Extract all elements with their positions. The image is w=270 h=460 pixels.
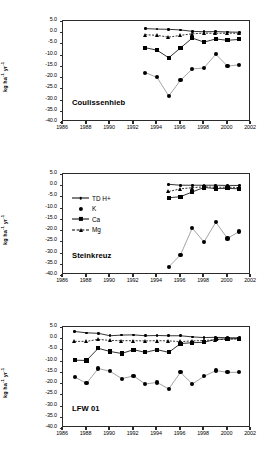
data-point-mg — [225, 31, 229, 35]
x-axis-tick-label: 1986 — [56, 431, 68, 436]
y-axis-tick — [60, 406, 63, 407]
legend-item: Ca — [72, 214, 111, 225]
y-axis-labels-1: 5.00.0-5.0-10.0-15.0-20.0-25.0-30.0-35.0… — [0, 155, 60, 294]
legend-label: Ca — [89, 216, 100, 223]
data-point-ca — [155, 348, 159, 352]
y-axis-tick — [60, 417, 63, 418]
data-point-td-h- — [167, 183, 170, 186]
legend-label: Mg — [89, 226, 101, 233]
y-axis-tick — [60, 208, 63, 209]
y-axis-tick — [60, 174, 63, 175]
legend-symbol-ca — [72, 215, 89, 224]
x-axis-tick-label: 1998 — [197, 278, 209, 283]
y-axis-tick — [60, 196, 63, 197]
x-axis-tick-label: 1994 — [150, 125, 162, 130]
y-axis-tick — [60, 88, 63, 89]
data-point-td-h- — [73, 330, 76, 333]
data-point-k — [167, 265, 171, 269]
data-point-k — [167, 387, 171, 391]
legend-symbol-td-h- — [72, 194, 89, 203]
data-point-ca — [143, 350, 147, 354]
data-point-ca — [202, 40, 206, 44]
legend-marker — [78, 217, 82, 221]
x-axis-tick-label: 1994 — [150, 278, 162, 283]
y-axis-tick — [60, 327, 63, 328]
data-point-k — [143, 71, 147, 75]
chart-panel-coulissenhieb: 5.00.0-5.0-10.0-15.0-20.0-25.0-30.0-35.0… — [0, 2, 270, 152]
y-axis-tick — [60, 21, 63, 22]
data-point-mg — [178, 33, 182, 37]
y-axis-tick — [60, 32, 63, 33]
legend-label: TD H+ — [89, 195, 111, 202]
data-point-mg — [202, 338, 206, 342]
y-axis-tick — [60, 77, 63, 78]
data-point-ca — [167, 196, 171, 200]
y-axis-tick-label: -10.0 — [45, 204, 57, 209]
data-point-ca — [155, 48, 159, 52]
data-point-k — [225, 64, 229, 68]
data-point-k — [225, 236, 229, 240]
site-label-1: Steinkreuz — [72, 251, 111, 260]
y-axis-tick-label: -20.0 — [45, 73, 57, 78]
y-axis-tick — [60, 230, 63, 231]
data-point-k — [214, 368, 218, 372]
data-point-mg — [96, 337, 100, 341]
y-axis-tick-label: -20.0 — [45, 226, 57, 231]
legend-symbol-k — [72, 204, 89, 213]
y-axis-tick-label: 5.0 — [50, 170, 57, 175]
y-axis-tick-label: -25.0 — [45, 238, 57, 243]
y-axis-tick — [60, 219, 63, 220]
y-axis-tick-label: -30.0 — [45, 402, 57, 407]
y-axis-tick — [60, 100, 63, 101]
x-axis-tick-label: 1988 — [80, 278, 92, 283]
data-point-mg — [178, 187, 182, 191]
data-point-k — [73, 375, 77, 379]
data-point-k — [96, 366, 100, 370]
y-axis-tick — [60, 372, 63, 373]
y-axis-tick — [60, 383, 63, 384]
y-axis-title-1: kg ha-1 yr-1 — [0, 182, 8, 278]
y-axis-tick — [60, 253, 63, 254]
x-axis-tick-label: 1988 — [80, 431, 92, 436]
x-axis-tick-label: 1986 — [56, 125, 68, 130]
y-axis-tick-label: -20.0 — [45, 379, 57, 384]
data-point-ca — [225, 38, 229, 42]
x-axis-tick-label: 2000 — [221, 431, 233, 436]
x-axis-tick-label: 1996 — [174, 278, 186, 283]
y-axis-tick-label: -30.0 — [45, 249, 57, 254]
data-point-mg — [213, 338, 217, 342]
y-axis-tick — [60, 66, 63, 67]
y-axis-tick-label: 0.0 — [50, 29, 57, 34]
x-axis-tick-label: 1992 — [127, 431, 139, 436]
data-point-ca — [190, 190, 194, 194]
x-axis-tick-label: 1990 — [103, 125, 115, 130]
y-axis-tick-label: -30.0 — [45, 96, 57, 101]
y-axis-tick — [60, 349, 63, 350]
y-axis-tick-label: -5.0 — [48, 193, 57, 198]
y-axis-tick-label: 0.0 — [50, 335, 57, 340]
data-point-mg — [213, 185, 217, 189]
legend-marker — [79, 228, 83, 232]
y-axis-tick-label: -15.0 — [45, 215, 57, 220]
x-axis-tick-label: 2002 — [244, 278, 256, 283]
y-axis-labels-2: 5.00.0-5.0-10.0-15.0-20.0-25.0-30.0-35.0… — [0, 308, 60, 447]
legend-item: Mg — [72, 225, 111, 236]
data-point-td-h- — [179, 29, 182, 32]
data-point-mg — [190, 339, 194, 343]
figure-deposition-panels: 5.00.0-5.0-10.0-15.0-20.0-25.0-30.0-35.0… — [0, 0, 270, 460]
data-point-k — [167, 94, 171, 98]
data-point-ca — [237, 37, 241, 41]
data-point-mg — [190, 32, 194, 36]
data-point-k — [237, 229, 241, 233]
y-axis-tick-label: -25.0 — [45, 85, 57, 90]
site-label-2: LFW 01 — [72, 404, 100, 413]
data-point-k — [178, 78, 182, 82]
data-point-mg — [202, 31, 206, 35]
data-point-mg — [225, 185, 229, 189]
data-point-ca — [131, 348, 135, 352]
y-axis-tick-label: -35.0 — [45, 107, 57, 112]
data-point-td-h- — [85, 332, 88, 335]
data-point-mg — [84, 339, 88, 343]
y-axis-tick-label: -25.0 — [45, 391, 57, 396]
data-point-k — [131, 374, 135, 378]
